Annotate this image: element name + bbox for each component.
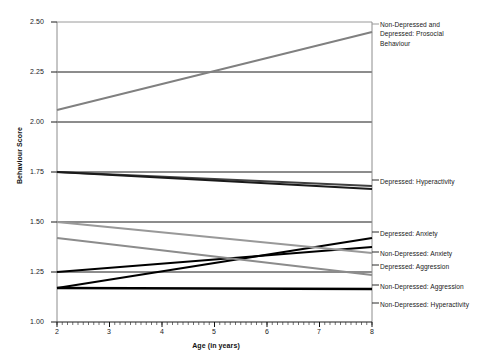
y-tick-250: 2.50: [10, 18, 44, 25]
series-line-0: [57, 32, 372, 110]
series-line-7: [57, 288, 372, 289]
y-tick-150: 1.50: [10, 218, 44, 225]
x-tick-4: 4: [153, 328, 171, 335]
chart-figure: 2.50 2.25 2.00 1.75 1.50 1.25 1.00 2 3 4…: [0, 0, 498, 362]
y-tick-225: 2.25: [10, 68, 44, 75]
series-line-6: [57, 238, 372, 275]
x-tick-6: 6: [258, 328, 276, 335]
series-label-nondepressed-hyperactivity: Non-Depressed: Hyperactivity: [380, 300, 469, 309]
x-axis-label: Age (in years): [56, 342, 376, 349]
series-label-nondepressed-anxiety: Non-Depressed: Anxiety: [380, 249, 452, 258]
y-tick-125: 1.25: [10, 268, 44, 275]
series-line-3: [57, 238, 372, 288]
series-label-nondepressed-aggression: Non-Depressed: Aggression: [380, 282, 464, 291]
gridlines: [57, 22, 372, 272]
legend-leader-lines: [372, 24, 379, 303]
x-tick-2: 2: [48, 328, 66, 335]
series-line-5: [57, 222, 372, 253]
series-label-depressed-hyperactivity: Depressed: Hyperactivity: [380, 177, 455, 186]
y-axis-ticks: [51, 22, 57, 322]
y-tick-100: 1.00: [10, 318, 44, 325]
y-axis-label: Behaviour Score: [16, 106, 23, 206]
x-tick-7: 7: [310, 328, 328, 335]
x-tick-3: 3: [100, 328, 118, 335]
series-label-depressed-aggression: Depressed: Aggression: [380, 262, 449, 271]
x-tick-8: 8: [363, 328, 381, 335]
series-line-4: [57, 247, 372, 272]
series-line-2: [57, 172, 372, 189]
data-series-lines: [57, 32, 372, 289]
series-label-prosocial: Non-Depressed and Depressed: Prosocial B…: [380, 20, 444, 48]
x-tick-5: 5: [205, 328, 223, 335]
series-label-depressed-anxiety: Depressed: Anxiety: [380, 229, 438, 238]
